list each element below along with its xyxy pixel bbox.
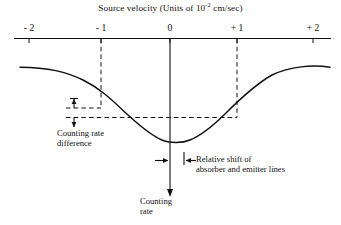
- x-axis-ticks: [29, 39, 313, 44]
- counting-rate-curve: [20, 66, 330, 142]
- counting-rate-axis-arrowhead: [167, 189, 173, 197]
- plot-area: [0, 0, 341, 225]
- mossbauer-counting-rate-figure: Source velocity (Units of 10-2 cm/sec) -…: [0, 0, 341, 225]
